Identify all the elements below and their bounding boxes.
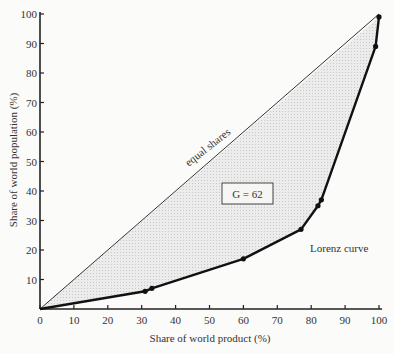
x-tick-label: 20	[102, 314, 114, 326]
data-point	[315, 203, 320, 208]
x-tick-label: 0	[37, 314, 43, 326]
data-point	[373, 44, 378, 49]
y-tick-label: 90	[26, 38, 38, 50]
data-point	[376, 14, 381, 19]
data-point	[241, 256, 246, 261]
lorenz-chart: 0102030405060708090100102030405060708090…	[0, 0, 394, 354]
x-tick-label: 80	[306, 314, 318, 326]
x-tick-label: 100	[371, 314, 388, 326]
x-tick-label: 60	[238, 314, 250, 326]
data-point	[319, 197, 324, 202]
x-axis-label: Share of world product (%)	[150, 332, 271, 345]
y-tick-label: 40	[26, 185, 38, 197]
x-tick-label: 50	[204, 314, 216, 326]
y-tick-label: 70	[26, 97, 38, 109]
x-tick-label: 90	[340, 314, 352, 326]
y-tick-label: 60	[26, 126, 38, 138]
x-tick-label: 30	[136, 314, 148, 326]
y-tick-label: 10	[26, 274, 38, 286]
gini-label: G = 62	[232, 188, 263, 200]
lorenz-curve-label: Lorenz curve	[310, 242, 368, 254]
data-point	[142, 289, 147, 294]
x-tick-label: 70	[272, 314, 284, 326]
x-tick-label: 40	[170, 314, 182, 326]
y-tick-label: 30	[26, 215, 38, 227]
x-tick-label: 10	[68, 314, 80, 326]
y-tick-label: 80	[26, 67, 38, 79]
y-axis-label: Share of world population (%)	[7, 92, 20, 227]
y-tick-label: 20	[26, 244, 38, 256]
data-point	[149, 286, 154, 291]
y-tick-label: 100	[21, 8, 38, 20]
y-tick-label: 50	[26, 156, 38, 168]
data-point	[298, 227, 303, 232]
